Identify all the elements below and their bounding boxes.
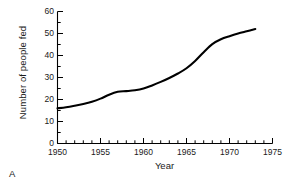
x-tick-label: 1960 xyxy=(124,148,164,157)
y-tick-label: 10 xyxy=(34,117,54,126)
x-tick-label: 1970 xyxy=(210,148,250,157)
x-tick-label: 1950 xyxy=(38,148,78,157)
panel-label: A xyxy=(9,168,15,179)
y-tick-label: 20 xyxy=(34,95,54,104)
x-tick-label: 1955 xyxy=(81,148,121,157)
x-tick-label: 1975 xyxy=(253,148,291,157)
axis-ticks xyxy=(58,12,273,144)
y-tick-label: 50 xyxy=(34,29,54,38)
y-axis-title: Number of people fed xyxy=(17,8,28,138)
chart-figure: Number of people fed 0102030405060 19501… xyxy=(0,0,290,186)
y-tick-label: 40 xyxy=(34,51,54,60)
data-series-line xyxy=(58,29,256,108)
x-tick-label: 1965 xyxy=(167,148,207,157)
y-tick-label: 60 xyxy=(34,7,54,16)
y-tick-label: 30 xyxy=(34,73,54,82)
axis-lines xyxy=(58,12,273,144)
x-axis-title: Year xyxy=(57,160,272,171)
